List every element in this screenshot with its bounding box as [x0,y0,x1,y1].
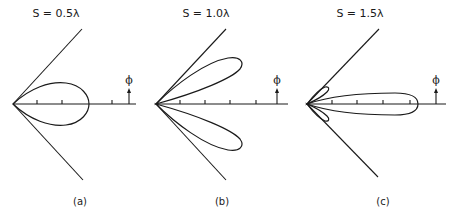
bound-line-lower [307,104,378,177]
arrow-head-icon [127,88,131,93]
axis-ticks [180,100,256,104]
bound-line-upper [307,29,379,104]
lower-lobe [156,104,242,150]
bound-line-upper [13,29,82,104]
side-lobe-upper [307,87,329,104]
bound-line-lower [13,104,83,180]
panel-b: ϕ S = 1.0λ (b) [156,7,288,207]
axis-ticks [332,100,410,104]
phi-label: ϕ [125,74,133,87]
panel-caption: (c) [376,196,389,207]
phi-label: ϕ [273,74,281,87]
axis-ticks [37,100,112,104]
radiation-pattern-figure: ϕ S = 0.5λ (a) ϕ S = 1.0λ (b) [0,0,451,215]
upper-lobe [156,58,242,104]
panel-caption: (a) [73,196,87,207]
panel-c: ϕ S = 1.5λ (c) [307,7,446,207]
phi-label: ϕ [432,74,440,87]
panel-caption: (b) [215,196,229,207]
panel-title: S = 1.0λ [182,7,230,20]
panel-title: S = 0.5λ [32,7,80,20]
panel-title: S = 1.5λ [336,7,384,20]
arrow-head-icon [434,88,438,93]
arrow-head-icon [275,88,279,93]
panel-a: ϕ S = 0.5λ (a) [13,7,136,207]
